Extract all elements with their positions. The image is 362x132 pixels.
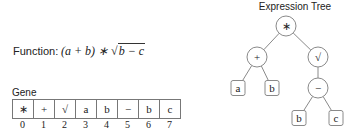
expression-tree: ∗+√ab−bc xyxy=(0,0,362,132)
tree-node-label: − xyxy=(315,82,321,94)
tree-node-b1: b xyxy=(265,81,279,96)
tree-node-a: a xyxy=(231,81,245,96)
tree-node-label: a xyxy=(236,82,241,94)
tree-node-label: c xyxy=(334,112,339,124)
tree-node-c: c xyxy=(329,111,343,126)
tree-node-minus: − xyxy=(308,78,328,98)
tree-edge xyxy=(304,96,313,110)
tree-node-label: + xyxy=(254,51,260,63)
tree-node-label: b xyxy=(296,112,302,124)
tree-edge xyxy=(261,66,268,80)
tree-edge xyxy=(243,66,252,81)
tree-node-sqrt: √ xyxy=(308,47,328,67)
tree-node-plus: + xyxy=(247,47,267,67)
tree-node-root: ∗ xyxy=(276,16,296,36)
tree-node-label: ∗ xyxy=(282,20,291,32)
tree-edge xyxy=(323,97,331,111)
tree-node-label: b xyxy=(269,82,275,94)
tree-node-label: √ xyxy=(315,51,322,63)
tree-edge xyxy=(293,33,311,50)
tree-edge xyxy=(264,33,279,49)
tree-node-b2: b xyxy=(292,111,306,126)
